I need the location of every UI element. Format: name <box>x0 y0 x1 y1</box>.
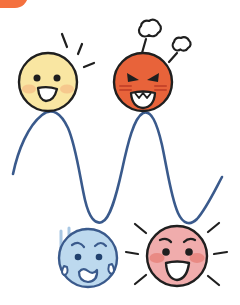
yellow-happy-face <box>19 34 94 111</box>
eye-left <box>34 75 41 82</box>
blush-left <box>22 85 36 94</box>
steam-puff-icon-small <box>169 37 191 62</box>
mood-wave-illustration: Mood wave illustration with four emotion… <box>0 0 240 305</box>
red-angry-face <box>114 20 191 111</box>
mouth <box>79 269 97 282</box>
eye-left <box>75 254 82 261</box>
tear-right-icon <box>108 264 114 274</box>
mood-wave-line <box>13 111 222 223</box>
eye-right <box>185 248 193 256</box>
steam-puff-icon <box>139 20 161 53</box>
tear-left-icon <box>62 266 68 275</box>
eye-right <box>96 254 103 261</box>
blue-sad-face <box>59 228 117 287</box>
blush-left <box>150 253 165 263</box>
eye-right <box>54 75 61 82</box>
pink-excited-face <box>126 223 227 286</box>
eye-left <box>162 248 170 256</box>
blush-right <box>60 85 74 94</box>
face-circle <box>19 53 77 111</box>
orange-corner-badge <box>0 0 28 8</box>
illustration-canvas <box>0 0 240 305</box>
